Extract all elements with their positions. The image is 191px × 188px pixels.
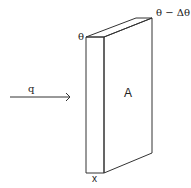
heat-flow-label: q bbox=[28, 84, 34, 94]
area-label: A bbox=[124, 87, 132, 99]
temperature-hot-label: θ bbox=[78, 32, 84, 42]
slab bbox=[86, 18, 152, 173]
slab-top-face bbox=[86, 18, 152, 37]
thickness-label: x bbox=[92, 174, 97, 184]
temperature-cold-label: θ − Δθ bbox=[156, 8, 190, 18]
slab-diagram bbox=[0, 0, 191, 188]
slab-front-face bbox=[86, 37, 104, 173]
heat-flow-arrow bbox=[10, 93, 70, 101]
